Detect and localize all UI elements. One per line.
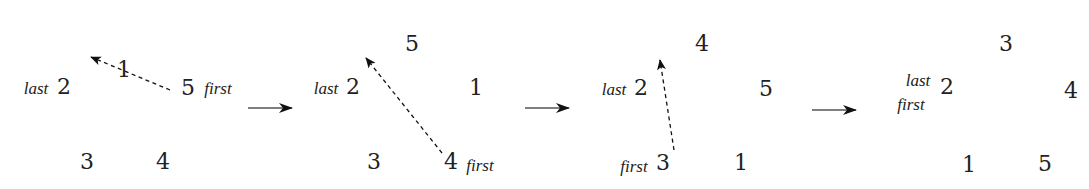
- slot-number: 4: [156, 151, 170, 173]
- slot-number: 2: [57, 76, 71, 98]
- last-pointer-label: last: [314, 80, 339, 97]
- slot-number: 1: [962, 154, 976, 176]
- slot-number: 1: [469, 77, 483, 99]
- last-pointer-label: last: [24, 80, 49, 97]
- slot-number: 2: [346, 76, 360, 98]
- slot-number: 3: [80, 151, 94, 173]
- first-pointer-label: first: [466, 157, 493, 174]
- slot-number: 4: [444, 151, 458, 173]
- last-pointer-label: last: [906, 72, 931, 89]
- slot-number: 4: [1064, 80, 1078, 102]
- pointer-move-arrow-icon: [366, 58, 442, 153]
- slot-number: 3: [367, 151, 381, 173]
- first-pointer-label: first: [204, 80, 231, 97]
- transition-arrows: [248, 108, 856, 110]
- pointer-move-arrow-icon: [660, 60, 674, 150]
- slot-number: 5: [759, 78, 773, 100]
- slot-number: 4: [695, 33, 709, 55]
- last-pointer-label: last: [602, 81, 627, 98]
- slot-number: 2: [634, 77, 648, 99]
- slot-number: 5: [405, 33, 419, 55]
- slot-number: 5: [1038, 153, 1052, 175]
- slot-number: 3: [999, 33, 1013, 55]
- slot-number: 2: [940, 76, 954, 98]
- pointer-move-arrows: [91, 57, 674, 153]
- slot-number: 1: [734, 152, 748, 174]
- slot-number: 1: [117, 59, 131, 81]
- circular-queue-diagram: 12345lastfirst52134lastfirst42531lastfir…: [0, 0, 1089, 189]
- slot-number: 5: [181, 77, 195, 99]
- slot-number: 3: [656, 152, 670, 174]
- first-pointer-label: first: [897, 96, 924, 113]
- first-pointer-label: first: [620, 158, 647, 175]
